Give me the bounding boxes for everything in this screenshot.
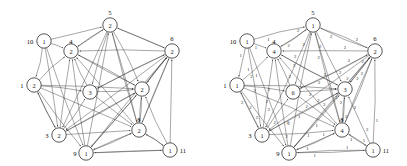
graph-node[interactable]: 15: [306, 9, 320, 33]
graph-right-canvas: 1111122222222222221112222222222221111122…: [203, 0, 407, 166]
edge-weight-label: 2: [274, 120, 277, 125]
graph-edge: [67, 92, 136, 130]
graph-edge: [244, 86, 284, 91]
graph-edge: [51, 44, 63, 49]
graph-node[interactable]: 2: [135, 82, 149, 96]
graph-edge: [316, 31, 341, 81]
graph-node[interactable]: 111: [366, 143, 389, 157]
node-value-label: 1: [311, 22, 314, 29]
graph-node[interactable]: 19: [276, 146, 296, 160]
node-id-label: 5: [108, 9, 112, 16]
edge-weight-label: 2: [339, 70, 342, 75]
edge-weight-label: 1: [306, 146, 309, 151]
graph-node[interactable]: 19: [73, 146, 93, 160]
graph-panel-left: 2511024262132232819111: [0, 0, 204, 166]
node-value-label: 1: [84, 150, 87, 157]
graph-node[interactable]: 26: [368, 35, 382, 59]
edge-weight-label: 2: [344, 45, 347, 50]
edge-weight-label: 1: [314, 153, 317, 158]
node-id-label: 4: [272, 38, 276, 45]
edge-weight-label: 2: [335, 95, 338, 100]
graph-edge: [295, 32, 310, 84]
edge-weight-label: 2: [309, 92, 312, 97]
edge-weight-label: 2: [346, 76, 349, 81]
edge-weight-label: 2: [305, 104, 308, 109]
edge-weight-label: 2: [317, 98, 320, 103]
node-id-label: 8: [340, 116, 344, 123]
graph-node[interactable]: 3: [83, 85, 97, 99]
graph-node[interactable]: 111: [163, 143, 186, 157]
node-value-label: 3: [88, 89, 91, 96]
graph-node[interactable]: 28: [132, 116, 146, 138]
edge-weight-label: 2: [361, 59, 364, 64]
graph-node[interactable]: 11: [223, 78, 244, 92]
edge-weight-label: 2: [354, 105, 357, 110]
node-id-label: 9: [73, 150, 77, 157]
graph-node[interactable]: 23: [45, 128, 66, 142]
edge-weight-label: 2: [288, 74, 291, 79]
graph-node[interactable]: 110: [230, 34, 254, 48]
node-value-label: 2: [170, 48, 173, 55]
graph-node[interactable]: 3: [338, 82, 352, 96]
edge-weight-label: 2: [356, 76, 359, 81]
graph-edge: [241, 93, 259, 129]
edge-weight-label: 1: [267, 37, 270, 42]
graph-node[interactable]: 13: [248, 128, 269, 142]
edge-weight-label: 2: [241, 100, 244, 105]
graph-edge: [66, 131, 130, 135]
graph-pair-figure: 2511024262132232819111 11111222222222222…: [0, 0, 407, 166]
graph-node[interactable]: 21: [20, 78, 41, 92]
edge-weight-label: 1: [346, 145, 349, 150]
graph-edge: [37, 91, 55, 127]
edge-weight-label: 2: [297, 28, 300, 33]
node-id-label: 11: [180, 147, 186, 154]
node-id-label: 6: [170, 35, 174, 42]
graph-edge: [79, 55, 136, 86]
edge-weight-label: 2: [366, 127, 369, 132]
graph-edge: [80, 50, 165, 51]
node-id-label: 3: [45, 132, 49, 139]
node-value-label: 6: [291, 89, 294, 96]
graph-node[interactable]: 25: [103, 9, 117, 33]
graph-edge: [92, 57, 168, 147]
node-value-label: 1: [371, 147, 374, 154]
graph-node[interactable]: 26: [165, 35, 179, 59]
node-value-label: 2: [69, 48, 72, 55]
node-value-label: 2: [32, 82, 35, 89]
edge-weight-label: 2: [288, 43, 291, 48]
edge-weight-label: 2: [294, 54, 297, 59]
graph-panel-right: 1111122222222222221112222222222221111122…: [203, 0, 407, 166]
edge-weight-label: 2: [266, 99, 269, 104]
graph-edge: [51, 27, 102, 39]
edge-weight-label: 1: [255, 45, 258, 50]
node-value-label: 2: [373, 48, 376, 55]
graph-edge: [96, 55, 164, 89]
edge-weight-label: 1: [363, 138, 366, 143]
graph-edge: [146, 135, 164, 146]
graph-edge: [373, 60, 375, 143]
node-value-label: 2: [137, 127, 140, 134]
graph-edge: [278, 59, 290, 86]
edge-weight-label: 1: [323, 132, 326, 137]
node-value-label: 1: [260, 132, 263, 139]
edge-weight-label: 1: [315, 123, 318, 128]
graph-edge: [146, 97, 167, 144]
edge-weight-label: 2: [268, 87, 271, 92]
graph-edge: [280, 54, 337, 85]
graph-edge: [112, 32, 137, 122]
node-id-label: 9: [276, 150, 280, 157]
node-value-label: 1: [42, 38, 45, 45]
edge-weight-label: 1: [298, 114, 301, 119]
node-value-label: 2: [108, 22, 111, 29]
node-id-label: 1: [223, 82, 226, 89]
edge-weight-label: 1: [307, 133, 310, 138]
graph-edge: [300, 90, 336, 92]
graph-node[interactable]: 110: [27, 34, 51, 48]
graph-node[interactable]: 6: [286, 85, 300, 99]
graph-node[interactable]: 24: [64, 38, 78, 59]
node-value-label: 1: [245, 38, 248, 45]
edge-weight-label: 2: [361, 71, 364, 76]
graph-edge: [39, 57, 64, 80]
edge-weight-label: 1: [376, 118, 379, 123]
graph-edge: [94, 133, 133, 150]
